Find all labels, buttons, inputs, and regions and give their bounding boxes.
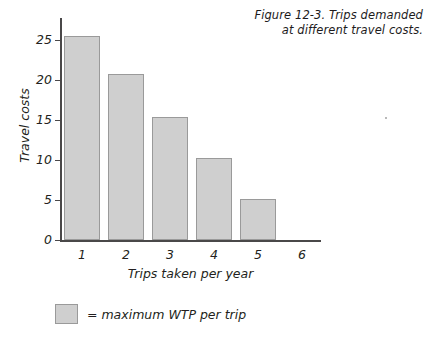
y-tick-mark [55,40,61,41]
y-tick-label-0: 0 [6,234,52,246]
bar-chart-plot: 0 5 10 15 20 25 1 2 3 4 5 [0,0,431,341]
x-tick-label-6: 6 [280,247,324,262]
y-tick-mark [55,160,61,161]
y-tick-mark [55,200,61,201]
x-axis-title: Trips taken per year [60,266,321,281]
y-axis-line [60,18,62,241]
scan-speck [385,117,387,119]
y-tick-label-5: 5 [6,194,52,206]
x-tick-label-5: 5 [236,247,280,262]
x-tick-label-4: 4 [192,247,236,262]
bar-category-3 [152,117,188,240]
legend-label: = maximum WTP per trip [87,307,246,322]
legend-swatch-icon [55,304,78,324]
bar-category-2 [108,74,144,240]
y-tick-mark [55,80,61,81]
y-tick-label-0-wrap: 0 [0,234,52,246]
y-tick-label-25: 25 [6,34,52,46]
x-tick-label-1: 1 [60,247,104,262]
y-tick-label-25-wrap: 25 [0,34,52,46]
x-axis-line [60,240,321,242]
bar-category-1 [64,36,100,240]
y-tick-mark [55,240,61,241]
y-axis-title: Travel costs [17,76,32,176]
figure-container: Figure 12-3. Trips demanded at different… [0,0,431,341]
x-tick-label-3: 3 [148,247,192,262]
bar-category-5 [240,199,276,240]
y-tick-mark [55,120,61,121]
x-tick-label-2: 2 [104,247,148,262]
legend: = maximum WTP per trip [55,304,246,324]
bar-category-4 [196,158,232,240]
y-tick-label-5-wrap: 5 [0,194,52,206]
